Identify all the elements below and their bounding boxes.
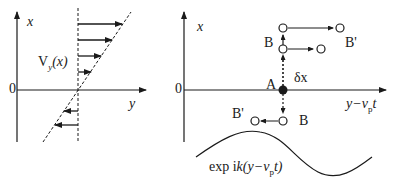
left-origin-label: 0 bbox=[9, 82, 16, 96]
left-y-axis-label: y bbox=[129, 97, 135, 111]
velocity-profile-dashed-line bbox=[43, 12, 131, 142]
point-bprime-mid bbox=[317, 45, 325, 53]
wave-label-mid: (y−v bbox=[243, 159, 270, 174]
point-bprime-lower bbox=[251, 117, 259, 125]
point-a-label: A bbox=[266, 78, 276, 92]
displacement-label: δx bbox=[294, 71, 308, 85]
wave-label-end: t) bbox=[274, 159, 283, 174]
point-bprime-top bbox=[336, 24, 344, 32]
point-b-lower bbox=[279, 117, 287, 125]
right-h-axis-label: y−vpt bbox=[346, 97, 376, 114]
wave-label: exp ik(y−vpt) bbox=[209, 160, 282, 177]
right-x-axis-label: x bbox=[197, 20, 203, 34]
velocity-label-arg: (x) bbox=[52, 54, 68, 69]
right-origin-label: 0 bbox=[175, 82, 182, 96]
point-bprime-upper-label: B' bbox=[345, 36, 357, 50]
left-panel bbox=[17, 8, 146, 142]
h-axis-label-end: t bbox=[372, 96, 376, 111]
h-axis-label-main: y−v bbox=[346, 96, 368, 111]
point-b-top bbox=[279, 24, 287, 32]
velocity-label: Vy(x) bbox=[38, 55, 68, 72]
point-b-upper bbox=[279, 45, 287, 53]
point-b-upper-label: B bbox=[264, 36, 273, 50]
velocity-label-main: V bbox=[38, 54, 48, 69]
left-x-axis-label: x bbox=[27, 15, 33, 29]
point-bprime-lower-label: B' bbox=[232, 107, 244, 121]
point-b-lower-label: B bbox=[299, 114, 308, 128]
wave-label-prefix: exp i bbox=[209, 159, 237, 174]
point-a bbox=[279, 86, 288, 95]
